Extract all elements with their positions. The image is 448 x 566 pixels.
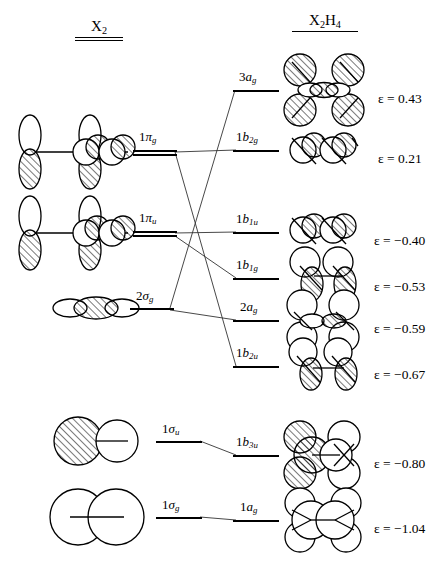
correlation-lines [170, 90, 236, 520]
energy-value-1b2u: ε = −0.67 [374, 367, 425, 383]
header-x2h4-text: X2H4 [292, 12, 358, 32]
level-label-2ag: 2ag [240, 299, 257, 315]
level-1b3u [233, 455, 279, 457]
level-label-1b1g: 1b1g [236, 257, 258, 273]
level-label-1pig: 1πg [139, 129, 156, 145]
orbital-picture-1b2g [290, 133, 358, 164]
header-x2h4: X2H4 [292, 12, 358, 32]
orbital-picture-1pig-a [19, 115, 101, 189]
orbital-picture-1b3u [284, 421, 360, 489]
level-1piu [133, 231, 177, 237]
orbital-picture-1pig-b [73, 135, 135, 165]
energy-value-3ag: ε = 0.43 [378, 91, 422, 107]
orbital-picture-1b1u [290, 214, 356, 244]
correlation-2sigmag-2ag [170, 310, 236, 320]
orbital-picture-1piu-a [19, 196, 101, 270]
correlation-1piu-1b1u [175, 232, 236, 233]
level-label-1sigmau: 1σu [162, 421, 179, 437]
correlation-1pig-1b2g [175, 150, 236, 152]
level-1b2u [233, 366, 279, 368]
orbital-picture-1sigmau [54, 417, 138, 465]
level-1b1u [233, 232, 279, 234]
level-label-2sigmag: 2σg [136, 288, 153, 304]
orbital-picture-1sigmag [50, 489, 144, 545]
level-label-1sigmag: 1σg [162, 497, 179, 513]
level-label-1b3u: 1b3u [236, 434, 258, 450]
level-label-3ag: 3ag [239, 69, 256, 85]
level-label-1b2g: 1b2g [236, 129, 258, 145]
orbital-picture-1b2u [289, 338, 357, 390]
orbital-picture-1b1g [290, 247, 356, 301]
energy-value-2ag: ε = −0.59 [374, 321, 425, 337]
level-label-1b1u: 1b1u [236, 211, 258, 227]
header-x2: X2 [75, 18, 123, 41]
level-2sigmag [130, 308, 174, 310]
correlation-1piu-1b1g [175, 236, 236, 278]
correlation-1pig-1b2u [175, 152, 236, 366]
level-2ag [233, 320, 279, 322]
level-1pig [133, 150, 177, 156]
orbital-picture-3ag [284, 54, 364, 126]
orbital-picture-2sigmag [53, 297, 139, 319]
energy-value-1ag: ε = −1.04 [374, 521, 425, 537]
level-1sigmag [156, 517, 202, 519]
energy-value-1b2g: ε = 0.21 [378, 151, 422, 167]
energy-value-1b3u: ε = −0.80 [374, 456, 425, 472]
orbital-picture-1ag [285, 488, 361, 552]
level-1b1g [233, 278, 279, 280]
level-1ag [233, 520, 279, 522]
correlation-1sigmau-1b3u [200, 441, 236, 455]
level-1b2g [233, 150, 279, 152]
energy-value-1b1g: ε = −0.53 [374, 279, 425, 295]
header-x2-underline2 [75, 38, 123, 42]
level-label-1b2u: 1b2u [236, 345, 258, 361]
level-1sigmau [156, 441, 202, 443]
level-label-1ag: 1ag [240, 499, 257, 515]
mo-correlation-diagram: X2 X2H4 1πg 1πu 2σg 1σu 1σg 3ag 1b2g 1b1… [0, 0, 448, 566]
level-3ag [233, 90, 279, 92]
correlation-1sigmag-1ag [200, 517, 236, 520]
energy-value-1b1u: ε = −0.40 [374, 233, 425, 249]
level-label-1piu: 1πu [139, 210, 156, 226]
orbital-picture-1piu-b [73, 216, 135, 246]
header-x2-text: X2 [75, 18, 123, 38]
correlation-2sigmag-3ag [170, 90, 235, 308]
orbital-picture-2ag [287, 290, 359, 352]
